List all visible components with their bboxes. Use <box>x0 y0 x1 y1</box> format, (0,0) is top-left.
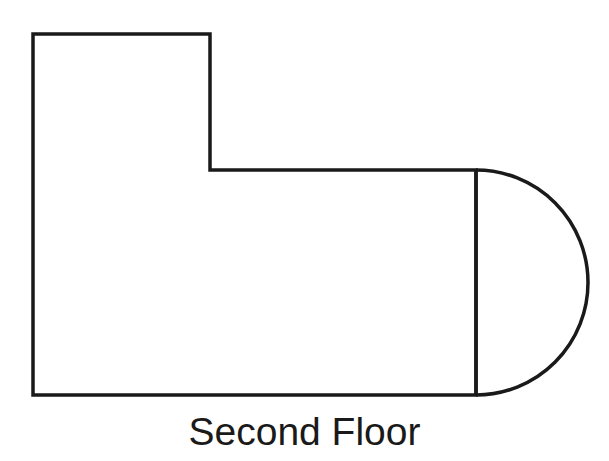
semicircle-bay-outline <box>476 170 588 395</box>
floor-label: Second Floor <box>0 408 609 456</box>
floor-plan <box>0 0 609 461</box>
l-shaped-room-outline <box>33 34 476 395</box>
